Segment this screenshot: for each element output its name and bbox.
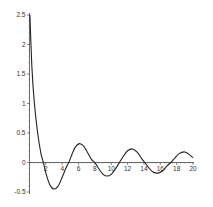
y-tick-label: 2 [22, 41, 26, 48]
y-tick-label: -0.5 [14, 188, 26, 195]
x-tick-label: 20 [189, 165, 197, 172]
y-tick-label: 0 [22, 159, 26, 166]
y-tick-label: 1.5 [16, 70, 25, 77]
y-axis: -0.500.511.522.5 [14, 11, 29, 195]
x-tick-label: 12 [124, 165, 132, 172]
y-tick-label: 0.5 [16, 129, 25, 136]
x-tick-label: 4 [60, 165, 64, 172]
x-tick-label: 18 [173, 165, 181, 172]
x-tick-label: 6 [77, 165, 81, 172]
y-tick-label: 2.5 [16, 11, 25, 18]
x-axis: 2468101214161820 [30, 163, 197, 172]
chart: -0.500.511.522.5 2468101214161820 [0, 0, 213, 207]
y-tick-label: 1 [22, 100, 26, 107]
